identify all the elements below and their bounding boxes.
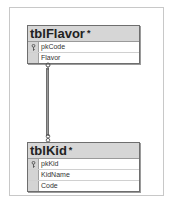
key-icon	[43, 62, 53, 70]
row-selector[interactable]	[28, 53, 39, 63]
row-selector[interactable]	[28, 170, 39, 180]
column-row[interactable]: KidName	[28, 170, 139, 181]
column-name: Code	[39, 181, 58, 191]
table-tblFlavor[interactable]: tblFlavor* pkCode Flavor	[27, 25, 140, 64]
row-selector[interactable]	[28, 181, 39, 191]
table-title[interactable]: tblKid*	[28, 143, 139, 158]
relationship-line[interactable]	[46, 68, 49, 136]
table-name: tblFlavor	[30, 26, 85, 41]
table-name: tblKid	[30, 143, 67, 158]
table-tblKid[interactable]: tblKid* pkKid KidName Code	[27, 142, 140, 192]
row-selector[interactable]	[28, 42, 39, 52]
column-name: pkCode	[39, 42, 65, 52]
column-name: pkKid	[39, 159, 59, 169]
key-icon	[31, 161, 36, 168]
column-row[interactable]: Code	[28, 181, 139, 191]
modified-marker: *	[69, 145, 73, 155]
column-row[interactable]: pkKid	[28, 159, 139, 170]
row-selector[interactable]	[28, 159, 39, 169]
key-icon	[31, 44, 36, 51]
column-name: KidName	[39, 170, 70, 180]
column-row[interactable]: pkCode	[28, 42, 139, 53]
table-title[interactable]: tblFlavor*	[28, 26, 139, 41]
modified-marker: *	[87, 28, 91, 38]
